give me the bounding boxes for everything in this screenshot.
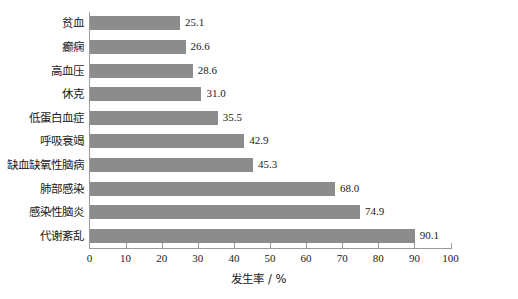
category-label: 呼吸衰竭	[0, 131, 84, 152]
bar-value-label: 74.9	[365, 203, 384, 220]
bar	[90, 40, 186, 54]
x-tick-label: 80	[363, 251, 393, 266]
x-tick-mark	[414, 243, 415, 249]
x-axis-title: 发生率 / %	[0, 270, 518, 286]
bar-value-label: 25.1	[185, 14, 204, 31]
x-tick-mark	[378, 243, 379, 249]
bar	[90, 205, 360, 219]
category-label: 贫血	[0, 13, 84, 34]
x-tick-mark	[342, 243, 343, 249]
category-label: 低蛋白血症	[0, 108, 84, 129]
bar-chart: 25.126.628.631.035.542.945.368.074.990.1…	[0, 0, 518, 299]
x-tick-label: 70	[327, 251, 357, 266]
x-tick-mark	[198, 243, 199, 249]
x-tick-label: 0	[75, 251, 105, 266]
x-tick-label: 90	[399, 251, 429, 266]
bar	[90, 87, 202, 101]
bar-row: 68.0	[90, 179, 451, 200]
bar-row: 31.0	[90, 84, 451, 105]
bar-value-label: 90.1	[420, 227, 439, 244]
bar-row: 28.6	[90, 61, 451, 82]
x-tick-label: 100	[436, 251, 466, 266]
category-label: 休克	[0, 84, 84, 105]
bar-row: 45.3	[90, 155, 451, 176]
bar	[90, 134, 245, 148]
x-tick-label: 40	[219, 251, 249, 266]
bar-row: 25.1	[90, 13, 451, 34]
bar-value-label: 35.5	[223, 109, 242, 126]
category-label: 癫痫	[0, 37, 84, 58]
bar	[90, 182, 335, 196]
bar-value-label: 68.0	[340, 180, 359, 197]
bar-row: 26.6	[90, 37, 451, 58]
x-tick-mark	[451, 243, 452, 249]
bar-value-label: 26.6	[191, 38, 210, 55]
x-tick-mark	[306, 243, 307, 249]
x-tick-label: 50	[255, 251, 285, 266]
category-label: 缺血缺氧性脑病	[0, 155, 84, 176]
x-tick-mark	[126, 243, 127, 249]
x-tick-label: 30	[183, 251, 213, 266]
category-label: 感染性脑炎	[0, 202, 84, 223]
bar	[90, 229, 415, 243]
x-tick-mark	[234, 243, 235, 249]
bar	[90, 16, 181, 30]
x-tick-label: 10	[111, 251, 141, 266]
category-label: 代谢紊乱	[0, 226, 84, 247]
bar-value-label: 42.9	[249, 132, 268, 149]
bar	[90, 158, 254, 172]
bar	[90, 64, 193, 78]
bar-row: 74.9	[90, 202, 451, 223]
category-label: 肺部感染	[0, 179, 84, 200]
bar-row: 35.5	[90, 108, 451, 129]
x-tick-mark	[270, 243, 271, 249]
bar-row: 42.9	[90, 131, 451, 152]
bar-value-label: 28.6	[198, 62, 217, 79]
x-tick-label: 60	[291, 251, 321, 266]
bar-value-label: 31.0	[206, 85, 225, 102]
x-tick-mark	[162, 243, 163, 249]
x-tick-label: 20	[147, 251, 177, 266]
bar	[90, 111, 218, 125]
category-label: 高血压	[0, 61, 84, 82]
bar-value-label: 45.3	[258, 156, 277, 173]
